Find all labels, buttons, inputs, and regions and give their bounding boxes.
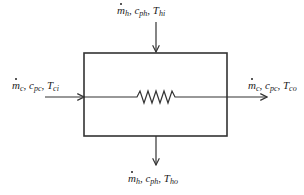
subscript: ci <box>53 84 59 93</box>
mass-flow-symbol: m <box>117 4 125 16</box>
cold-outlet-label: mc, cpc, Tco <box>248 79 297 91</box>
hot-inlet-label: mh, cph, Thi <box>117 4 165 16</box>
resistor-icon <box>84 91 227 103</box>
subscript: co <box>289 84 297 93</box>
mass-flow-symbol: m <box>248 79 256 91</box>
subscript: hi <box>159 9 165 18</box>
subscript: ho <box>170 177 178 186</box>
cold-inlet-label: mc, cpc, Tci <box>12 79 59 91</box>
hot-outlet-label: mh, cph, Tho <box>128 172 178 184</box>
mass-flow-symbol: m <box>128 172 136 184</box>
exchanger-box <box>84 53 227 136</box>
heat-exchanger-diagram <box>0 0 304 195</box>
mass-flow-symbol: m <box>12 79 20 91</box>
